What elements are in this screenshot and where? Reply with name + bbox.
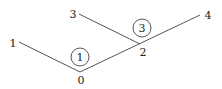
circle-label-3: 3 <box>139 22 146 35</box>
edges <box>19 14 200 72</box>
tree-diagram: 1 3 0 1 2 3 4 <box>0 0 222 89</box>
vertex-label-1: 1 <box>10 37 17 50</box>
circle-label-1: 1 <box>77 51 84 64</box>
vertex-label-4: 4 <box>205 9 212 22</box>
vertex-label-2: 2 <box>140 46 147 59</box>
circled-label-3: 3 <box>133 19 151 37</box>
vertex-label-3: 3 <box>70 8 77 21</box>
vertex-labels: 0 1 2 3 4 <box>10 8 212 87</box>
vertex-label-0: 0 <box>78 74 85 87</box>
edge-3-2 <box>79 14 140 44</box>
circled-label-1: 1 <box>71 48 89 66</box>
